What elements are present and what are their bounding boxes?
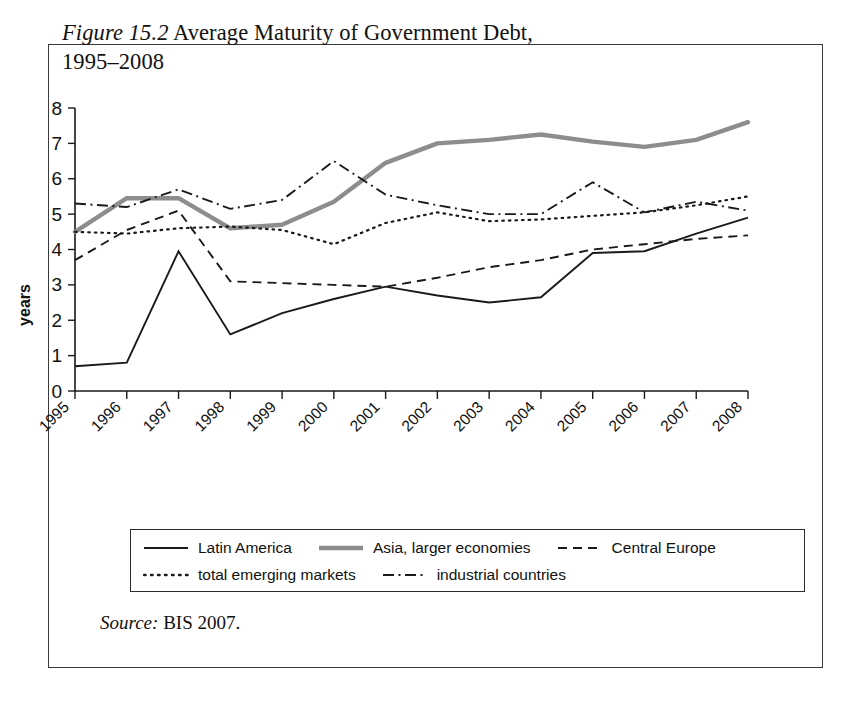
figure-title-years: 1995–2008 — [62, 49, 164, 74]
figure-title-text: Average Maturity of Government Debt, — [169, 20, 533, 45]
x-tick-label: 1995 — [36, 398, 72, 434]
legend-row-secondary: total emerging marketsindustrial countri… — [143, 562, 592, 588]
legend-swatch-icon — [143, 541, 189, 555]
series-line-latin-america — [75, 218, 748, 367]
legend-label: Central Europe — [612, 539, 716, 557]
x-tick-label: 2002 — [398, 398, 434, 434]
y-tick-label: 1 — [51, 345, 62, 366]
x-tick-label: 1999 — [243, 398, 279, 434]
x-axis-ticks: 1995199619971998199920002001200220032004… — [36, 391, 748, 435]
x-tick-label: 1996 — [87, 398, 123, 434]
x-tick-label: 2001 — [346, 398, 382, 434]
x-tick-label: 1997 — [139, 398, 175, 434]
legend-item-asia-larger-economies[interactable]: Asia, larger economies — [318, 539, 531, 557]
series-line-central-europe — [75, 211, 748, 287]
figure-number: Figure 15.2 — [62, 20, 169, 45]
x-tick-label: 2005 — [553, 398, 589, 434]
figure-page: Figure 15.2 Average Maturity of Governme… — [0, 0, 868, 706]
x-tick-label: 2000 — [295, 398, 332, 435]
y-tick-label: 7 — [51, 133, 62, 154]
chart-plot-area: 012345678 199519961997199819992000200120… — [0, 100, 775, 480]
legend-item-latin-america[interactable]: Latin America — [143, 539, 292, 557]
y-tick-label: 4 — [51, 239, 62, 260]
legend-item-central-europe[interactable]: Central Europe — [557, 539, 716, 557]
x-tick-label: 2004 — [502, 398, 539, 435]
legend-label: total emerging markets — [198, 566, 356, 584]
series-line-industrial-countries — [75, 161, 748, 214]
y-axis-ticks: 012345678 — [51, 100, 75, 402]
y-axis-title: years — [16, 284, 33, 326]
legend-swatch-icon — [382, 568, 428, 582]
figure-title: Figure 15.2 Average Maturity of Governme… — [62, 18, 702, 77]
legend-swatch-icon — [557, 541, 603, 555]
chart-series-lines — [75, 122, 748, 366]
source-note: Source: BIS 2007. — [100, 612, 240, 634]
series-line-asia-larger-economies — [75, 122, 748, 232]
series-line-total-emerging-markets — [75, 196, 748, 244]
x-tick-label: 2007 — [657, 398, 693, 434]
chart-legend: Latin AmericaAsia, larger economiesCentr… — [130, 529, 805, 592]
legend-swatch-icon — [143, 568, 189, 582]
legend-label: industrial countries — [437, 566, 566, 584]
source-text: BIS 2007. — [158, 612, 240, 633]
legend-item-industrial-countries[interactable]: industrial countries — [382, 566, 566, 584]
legend-label: Asia, larger economies — [373, 539, 531, 557]
legend-label: Latin America — [198, 539, 292, 557]
y-tick-label: 5 — [51, 204, 62, 225]
y-tick-label: 3 — [51, 274, 62, 295]
x-tick-label: 2008 — [709, 398, 745, 434]
y-tick-label: 0 — [51, 381, 62, 402]
y-tick-label: 6 — [51, 168, 62, 189]
legend-row-primary: Latin AmericaAsia, larger economiesCentr… — [143, 535, 742, 561]
y-tick-label: 2 — [51, 310, 62, 331]
x-tick-label: 1998 — [191, 398, 227, 434]
source-label: Source: — [100, 612, 158, 633]
x-tick-label: 2006 — [605, 398, 641, 434]
legend-swatch-icon — [318, 541, 364, 555]
legend-item-total-emerging-markets[interactable]: total emerging markets — [143, 566, 356, 584]
line-chart: 012345678 199519961997199819992000200120… — [0, 100, 775, 480]
x-tick-label: 2003 — [450, 398, 486, 434]
y-tick-label: 8 — [51, 100, 62, 119]
